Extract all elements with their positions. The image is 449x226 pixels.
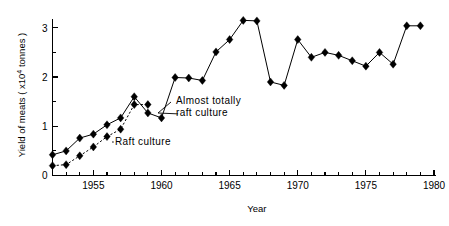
x-axis-tick-label: 1955 — [82, 180, 105, 191]
x-axis-tick-label: 1970 — [287, 180, 310, 191]
data-point-marker — [185, 74, 192, 82]
data-point-marker — [76, 152, 83, 160]
data-point-marker — [90, 130, 97, 138]
y-axis-title: Yield of meats ( x104 tonnes ) — [16, 33, 28, 157]
x-axis-tick-label: 1965 — [219, 180, 242, 191]
data-point-marker — [335, 51, 342, 59]
data-point-marker — [417, 22, 424, 30]
data-point-marker — [158, 114, 165, 122]
annotation-leader-line — [158, 102, 171, 113]
y-axis-tick-label: 3 — [42, 23, 48, 34]
data-point-marker — [281, 81, 288, 89]
data-point-marker — [49, 162, 56, 170]
line-chart: 1955196019651970197519800123YearYield of… — [0, 0, 449, 226]
y-axis-tick-label: 2 — [42, 72, 48, 83]
data-point-marker — [254, 17, 261, 25]
data-point-marker — [90, 143, 97, 151]
data-point-marker — [104, 133, 111, 141]
data-point-marker — [117, 125, 124, 133]
data-point-marker — [104, 121, 111, 129]
x-axis-tick-label: 1960 — [150, 180, 173, 191]
x-axis-tick-label: 1975 — [355, 180, 378, 191]
data-point-marker — [145, 101, 152, 109]
y-axis-tick-label: 1 — [42, 121, 48, 132]
data-point-marker — [172, 74, 179, 82]
data-point-marker — [49, 151, 56, 159]
data-point-marker — [390, 60, 397, 68]
data-point-marker — [63, 161, 70, 169]
data-point-marker — [267, 78, 274, 86]
data-point-marker — [131, 101, 138, 109]
x-axis-tick-label: 1980 — [423, 180, 446, 191]
data-point-marker — [403, 22, 410, 30]
y-axis-tick-label: 0 — [42, 170, 48, 181]
annotation-label: raft culture — [176, 107, 228, 118]
annotation-label: Almost totally — [176, 95, 241, 106]
data-point-marker — [199, 76, 206, 84]
data-point-marker — [322, 48, 329, 56]
annotation-label: Raft culture — [115, 136, 171, 147]
data-point-marker — [213, 48, 220, 56]
chart-figure: 1955196019651970197519800123YearYield of… — [0, 0, 449, 226]
data-point-marker — [349, 57, 356, 65]
x-axis-title: Year — [247, 203, 266, 214]
